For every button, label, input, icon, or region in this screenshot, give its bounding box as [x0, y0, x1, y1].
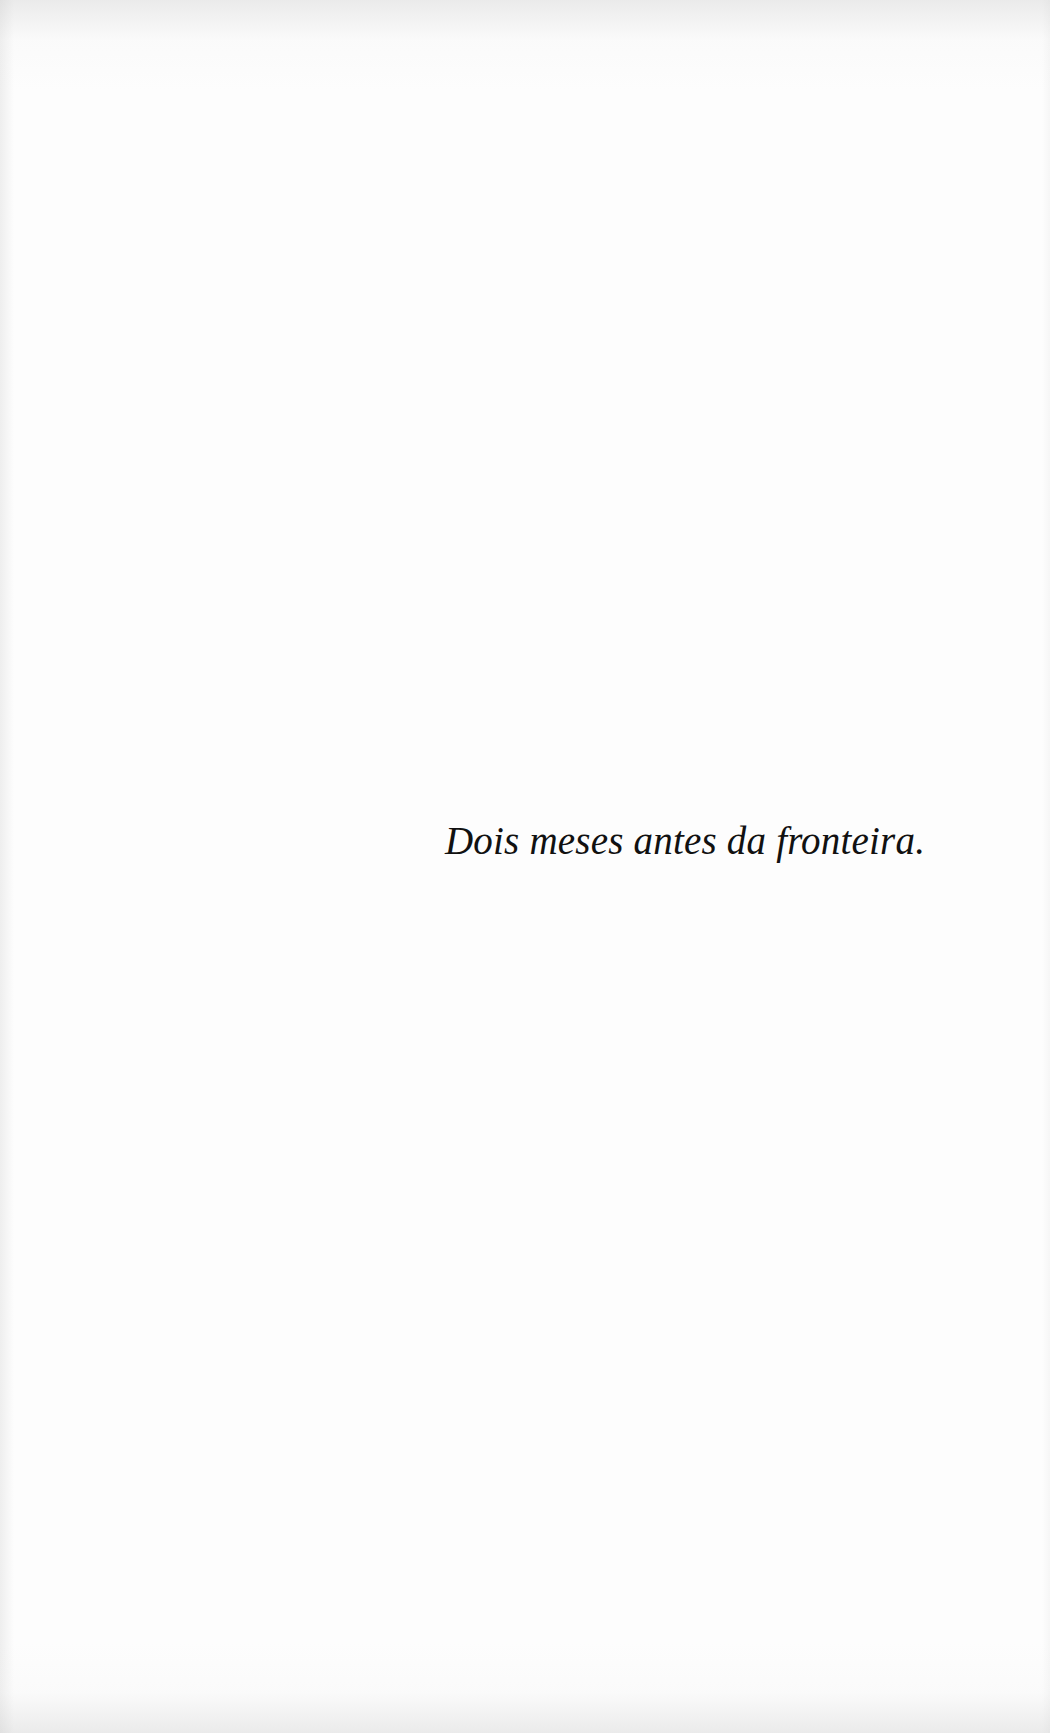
- book-page: Dois meses antes da fronteira.: [0, 0, 1050, 1733]
- epigraph-text: Dois meses antes da fronteira.: [445, 818, 945, 864]
